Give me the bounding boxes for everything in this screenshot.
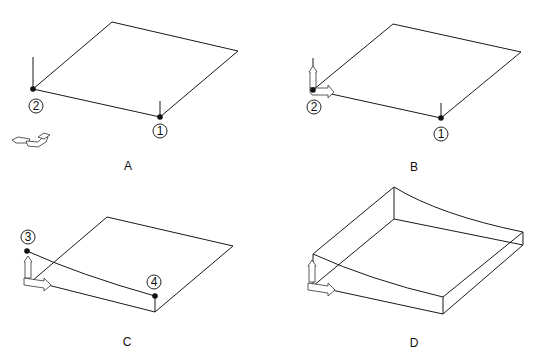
- point-dot: [157, 114, 163, 120]
- point-dot: [438, 115, 444, 121]
- panel-caption: B: [410, 160, 418, 174]
- point-label-3: 3: [25, 230, 32, 244]
- point-dot: [24, 248, 30, 254]
- plane-outline: [33, 22, 238, 117]
- solid-edge: [313, 219, 394, 286]
- ucs-icon: [12, 133, 50, 147]
- point-dot: [30, 86, 36, 92]
- panel-caption: C: [123, 335, 132, 349]
- ucs-icon: [24, 256, 51, 291]
- panel-b: 2 1 B: [307, 24, 521, 174]
- point-label-1: 1: [157, 124, 164, 138]
- point-label-2: 2: [311, 100, 318, 114]
- solid-edge: [443, 245, 523, 314]
- point-label-4: 4: [151, 275, 158, 289]
- point-dot: [152, 293, 158, 299]
- point-label-1: 1: [438, 127, 445, 141]
- point-dot: [310, 87, 316, 93]
- panel-d: D: [308, 187, 523, 350]
- ucs-icon: [308, 260, 335, 296]
- point-label-2: 2: [33, 99, 40, 113]
- plane-outline: [32, 217, 233, 312]
- panel-caption: D: [410, 336, 419, 350]
- solid-edge: [394, 219, 523, 245]
- figure-canvas: 2 1 A 2 1 B: [0, 0, 536, 361]
- solid-top-face: [313, 187, 523, 297]
- panel-c: 3 4 C: [21, 217, 233, 349]
- panel-a: 2 1 A: [12, 22, 238, 173]
- panel-caption: A: [124, 159, 132, 173]
- plane-outline: [313, 24, 521, 118]
